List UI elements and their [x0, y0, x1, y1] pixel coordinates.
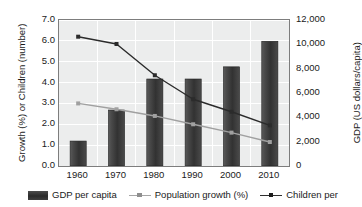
legend-swatch-line-icon [129, 191, 151, 200]
axis-tick-label: 4,000 [296, 111, 320, 121]
axis-tick-label: 4.0 [42, 77, 55, 87]
x-axis-tick-label: 1980 [132, 170, 176, 180]
axis-tick-label: 0 [296, 160, 301, 170]
axis-tick-label: 7.0 [42, 14, 55, 24]
legend-item-label: Population growth (%) [155, 190, 248, 200]
axis-tick-label: 1.0 [42, 139, 55, 149]
plot-area [58, 19, 290, 167]
legend-item: GDP per capita [28, 190, 117, 200]
legend-swatch-line-icon [260, 191, 282, 200]
legend-item-label: GDP per capita [52, 190, 117, 200]
legend-item: Population growth (%) [129, 190, 248, 200]
plot-svg [59, 20, 289, 166]
axis-tick-label: 6.0 [42, 35, 55, 45]
y-axis-left-tick-labels: 0.01.02.03.04.05.06.07.0 [18, 0, 58, 207]
axis-tick-label: 0.0 [42, 160, 55, 170]
y-axis-right-title: GDP (US dollars/capita) [352, 13, 362, 173]
axis-tick-label: 8,000 [296, 63, 320, 73]
axis-tick-label: 10,000 [296, 38, 325, 48]
chart-legend: GDP per capitaPopulation growth (%)Child… [28, 188, 338, 202]
legend-item-label: Children per [286, 190, 338, 200]
x-axis-tick-label: 2010 [247, 170, 291, 180]
legend-swatch-bar-icon [28, 191, 48, 200]
axis-tick-label: 2.0 [42, 118, 55, 128]
legend-item: Children per [260, 190, 338, 200]
axis-tick-label: 5.0 [42, 56, 55, 66]
axis-tick-label: 12,000 [296, 14, 325, 24]
x-axis-tick-labels: 196019701980199020002010 [58, 170, 290, 184]
axis-tick-label: 6,000 [296, 87, 320, 97]
axis-tick-label: 3.0 [42, 97, 55, 107]
axis-tick-label: 2,000 [296, 136, 320, 146]
y-axis-right-tick-labels: 02,0004,0006,0008,00010,00012,000 [293, 0, 333, 207]
